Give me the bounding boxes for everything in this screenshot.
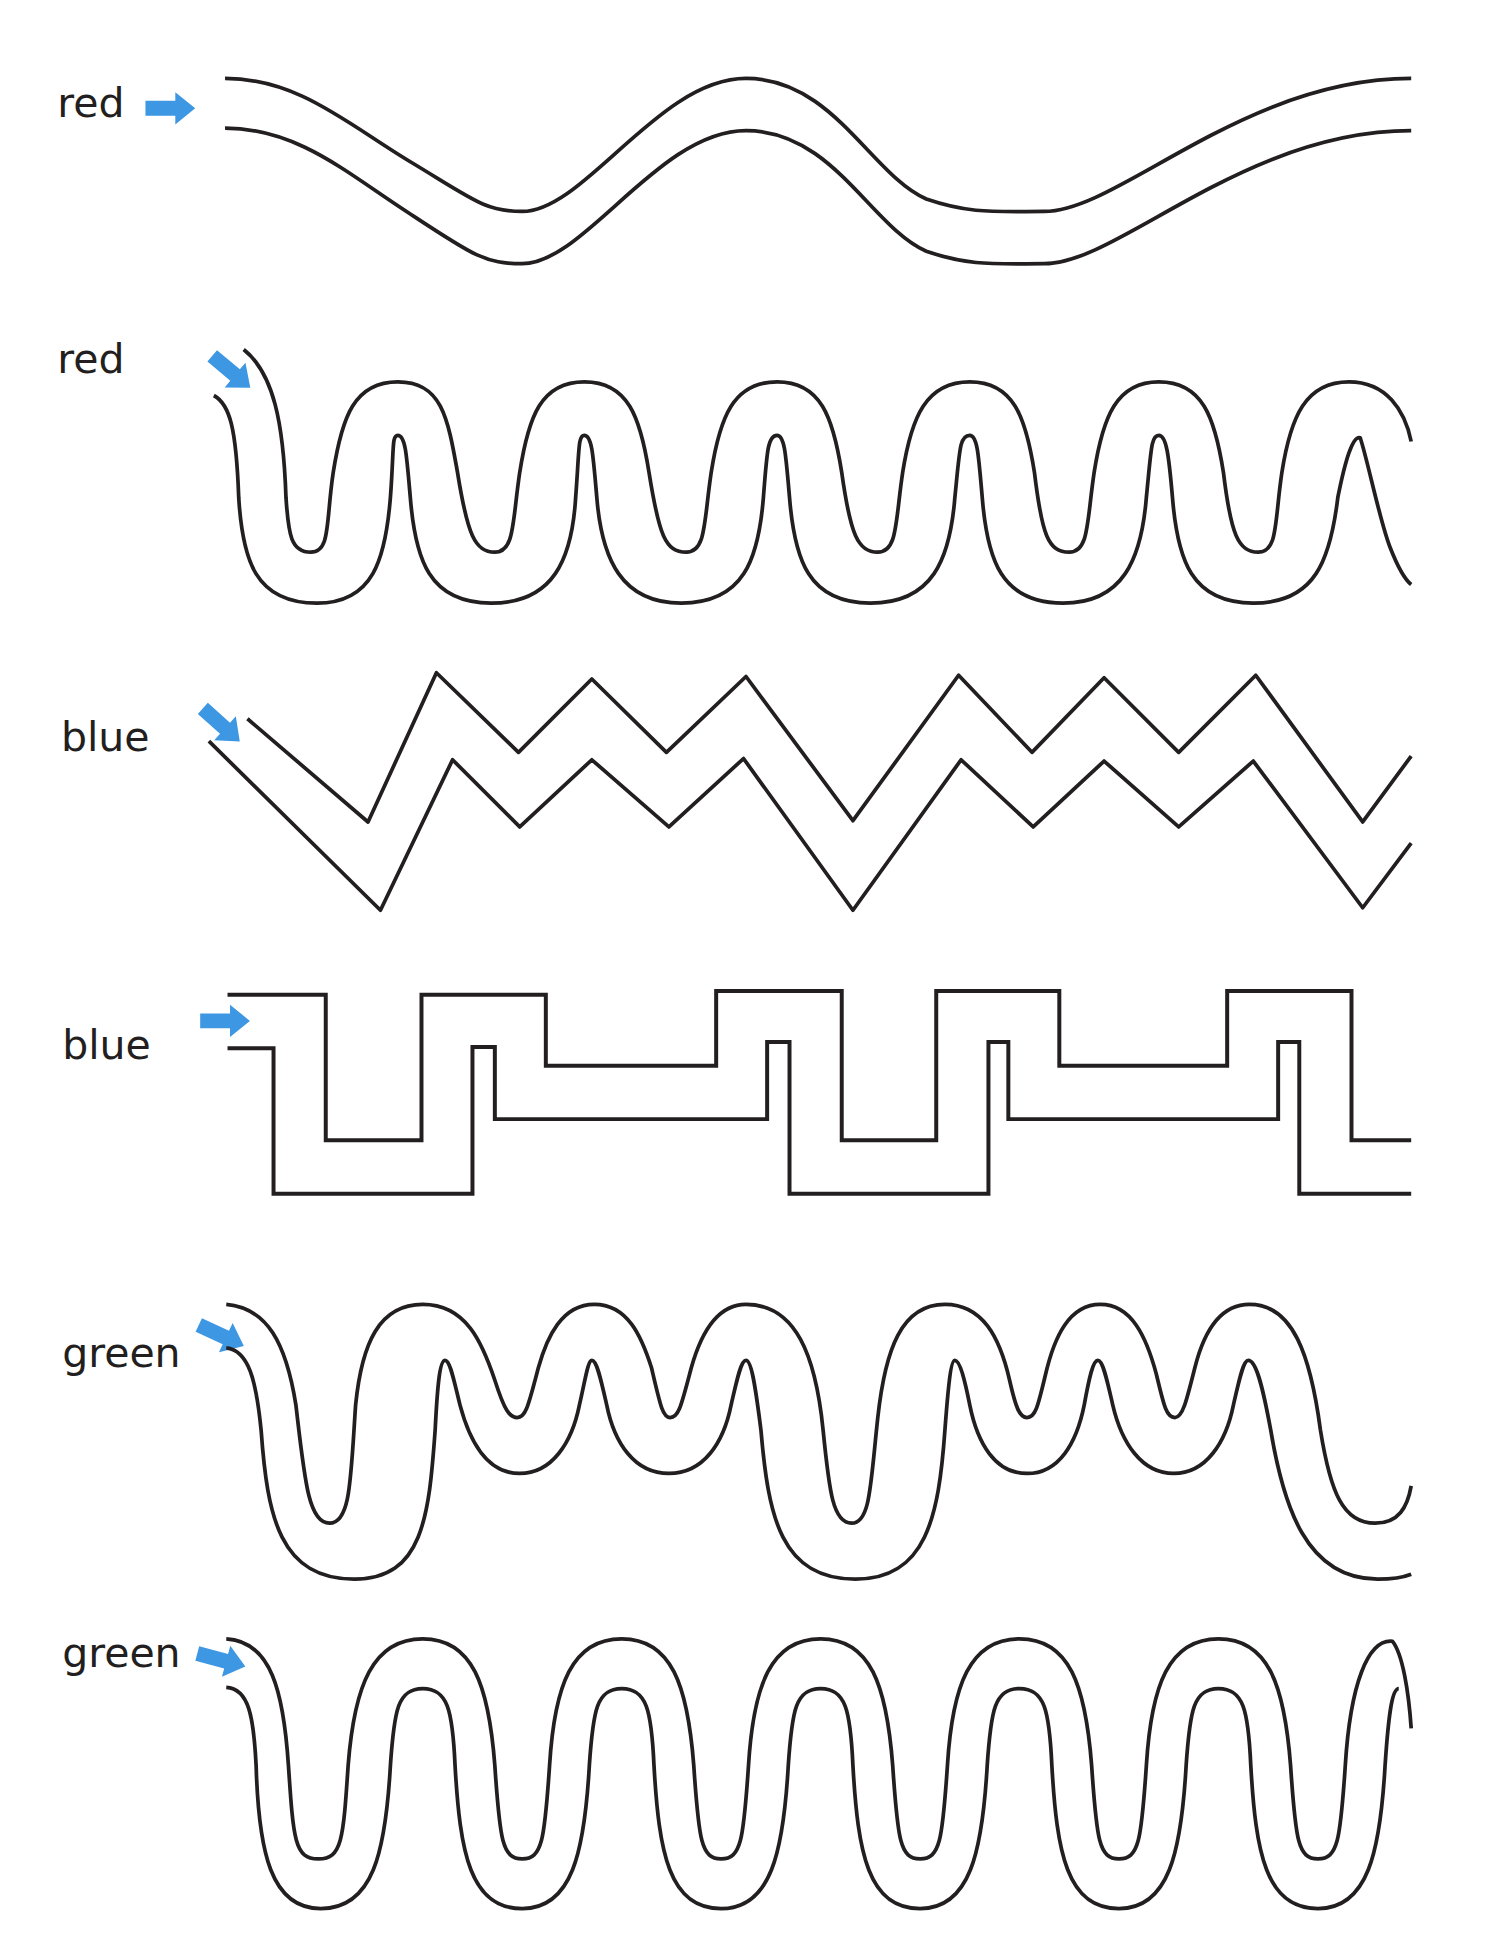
maze-color-label: red: [57, 335, 124, 383]
worksheet-canvas: red red blue blue green: [0, 0, 1492, 1956]
maze-wall-bottom: [209, 741, 1411, 910]
maze-color-label: blue: [61, 713, 150, 761]
maze-1: red: [57, 78, 1411, 263]
maze-wall-bottom: [226, 1348, 1411, 1579]
maze-color-label: green: [62, 1329, 180, 1377]
maze-4: blue: [62, 991, 1411, 1194]
start-arrow-icon: [202, 344, 261, 401]
maze-3: blue: [61, 673, 1411, 910]
maze-wall-bottom: [214, 395, 1411, 603]
start-arrow-icon: [200, 1005, 250, 1037]
maze-wall-top: [226, 1639, 1411, 1859]
maze-wall-bottom: [228, 1042, 1412, 1194]
maze-wall-bottom: [225, 128, 1411, 264]
maze-color-label: red: [57, 79, 124, 127]
maze-wall-top: [247, 673, 1411, 822]
start-arrow-icon: [193, 1638, 249, 1682]
maze-color-label: green: [62, 1629, 180, 1677]
maze-wall-top: [225, 78, 1411, 211]
start-arrow-icon: [192, 696, 251, 753]
maze-6: green: [62, 1629, 1411, 1908]
maze-color-label: blue: [62, 1021, 151, 1069]
start-arrow-icon: [145, 92, 195, 124]
start-arrow-icon: [192, 1310, 251, 1360]
maze-worksheet: red red blue blue green: [0, 0, 1492, 1956]
maze-5: green: [62, 1304, 1411, 1579]
maze-wall-top: [226, 1304, 1411, 1523]
maze-wall-top: [244, 349, 1411, 552]
maze-2: red: [57, 335, 1411, 603]
maze-wall-bottom: [226, 1687, 1398, 1908]
